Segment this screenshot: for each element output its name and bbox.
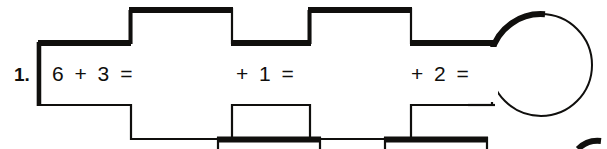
worksheet-page: 1. 6 + 3 = + 1 = + 2 =: [0, 0, 607, 149]
item-number: 1.: [14, 64, 30, 85]
next-row-balloon-arc: [578, 141, 601, 149]
equation-segment-2: + 1 =: [236, 62, 296, 85]
caterpillar-worksheet-graphic: 1. 6 + 3 = + 1 = + 2 =: [0, 0, 607, 149]
equation-segment-1: 6 + 3 =: [52, 62, 135, 85]
equation-segment-3: + 2 =: [411, 62, 471, 85]
neck-join-mask: [486, 47, 498, 102]
next-row-fragment: [217, 138, 601, 149]
